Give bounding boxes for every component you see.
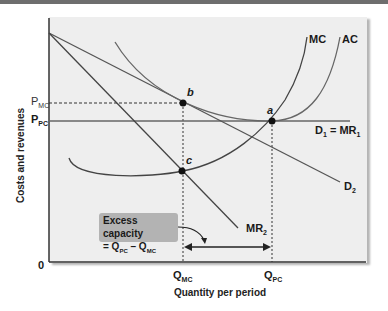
pmc-tick-label: PMC [31,95,49,109]
note-formula: = QPC – QMC [103,240,174,258]
ppc-tick-label: PPC [31,113,48,127]
origin-label: 0 [38,259,44,271]
x-axis-label: Quantity per period [140,287,300,298]
mr1-text: = MR [327,124,357,136]
d2-text: D [344,180,352,192]
y-axis-label: Costs and revenues [15,106,26,206]
excess-capacity-note: Excess capacity = QPC – QMC [99,213,178,242]
qpc-sub: PC [273,276,283,283]
note-title: Excess capacity [103,214,174,240]
callout-arrowhead-icon [201,238,207,244]
d1-text: D [315,124,323,136]
note-sub-pc: PC [119,248,127,254]
chart-svg [0,0,388,311]
qmc-text: Q [173,269,182,281]
point-a-label: a [267,104,273,116]
ac-curve [115,37,340,121]
qpc-tick-label: QPC [264,269,282,283]
mr2-line [49,33,238,228]
qpc-text: Q [264,269,273,281]
d2-label: D2 [344,180,356,194]
d2-line [49,33,340,182]
pmc-sub: MC [38,102,49,109]
qmc-sub: MC [182,276,193,283]
point-c-label: c [186,154,192,166]
ac-label: AC [342,33,358,45]
mc-label: MC [309,33,326,45]
point-a-marker [269,118,276,125]
ppc-sub: PC [38,120,48,127]
point-c-marker [179,168,186,175]
d1-mr1-label: D1 = MR1 [315,124,360,138]
qmc-tick-label: QMC [173,269,192,283]
mr2-label: MR2 [246,222,267,236]
callout-arrow [178,227,204,240]
mr2-sub: 2 [263,229,267,236]
note-sub-mc: MC [147,248,156,254]
note-minus: – Q [128,241,147,252]
point-b-marker [180,100,187,107]
arrow-right-icon [263,243,271,251]
point-b-label: b [187,86,194,98]
mr1-sub: 1 [357,131,361,138]
d2-sub: 2 [352,187,356,194]
note-eq: = Q [103,241,119,252]
mr2-text: MR [246,222,263,234]
arrow-left-icon [184,243,192,251]
